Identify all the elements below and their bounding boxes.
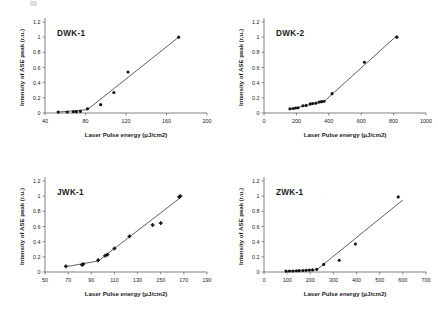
chart-panel-dwk-2: 00.20.40.60.811.202004006008001000DWK-2L… — [219, 0, 438, 159]
panel-title: DWK-2 — [276, 29, 304, 38]
chart-panel-zwk-1: 00.20.40.60.811.20100200300400500600700Z… — [219, 159, 438, 318]
data-point — [397, 195, 400, 198]
x-tick-label: 800 — [389, 118, 398, 124]
y-tick-label: 0 — [38, 269, 41, 275]
trend-line — [66, 198, 181, 267]
data-point — [308, 269, 311, 272]
panel-title: ZWK-1 — [276, 188, 304, 197]
data-point — [298, 269, 301, 272]
y-tick-label: 0.4 — [252, 80, 260, 86]
data-point — [301, 104, 304, 107]
chart-svg-dwk-1: 00.20.40.60.811.24080120160200DWK-1Laser… — [0, 0, 219, 159]
y-tick-label: 0.2 — [252, 254, 260, 260]
x-tick-label: 300 — [329, 277, 338, 283]
x-tick-label: 80 — [83, 118, 89, 124]
ase-threshold-figure: 00.20.40.60.811.24080120160200DWK-1Laser… — [0, 0, 438, 318]
data-point — [305, 269, 308, 272]
data-point — [315, 268, 318, 271]
data-point — [72, 110, 75, 113]
x-tick-label: 200 — [203, 118, 212, 124]
y-tick-label: 0.2 — [33, 95, 41, 101]
x-tick-label: 400 — [352, 277, 361, 283]
data-point — [79, 110, 82, 113]
data-point — [66, 110, 69, 113]
data-point — [159, 221, 163, 225]
x-axis-title: Laser Pulse energy (μJ/cm2) — [304, 131, 387, 138]
y-tick-label: 1.2 — [33, 178, 41, 184]
x-tick-label: 110 — [110, 277, 119, 283]
x-tick-label: 130 — [133, 277, 142, 283]
data-point — [354, 242, 357, 245]
chart-panel-jwk-1: 00.20.40.60.811.2507090110130150170190JW… — [0, 159, 219, 318]
y-axis-title: Intensity of ASE peak (r.u.) — [18, 188, 25, 265]
x-tick-label: 150 — [156, 277, 165, 283]
data-point — [75, 110, 78, 113]
chart-panel-dwk-1: 00.20.40.60.811.24080120160200DWK-1Laser… — [0, 0, 219, 159]
y-tick-label: 1.2 — [252, 178, 260, 184]
data-point — [295, 269, 298, 272]
data-point — [322, 263, 325, 266]
data-point — [288, 269, 291, 272]
x-tick-label: 160 — [162, 118, 171, 124]
data-point — [284, 270, 287, 273]
data-point — [305, 104, 308, 107]
y-tick-label: 0.4 — [252, 239, 260, 245]
y-axis-title: Intensity of ASE peak (r.u.) — [18, 29, 25, 106]
y-tick-label: 1.2 — [252, 19, 260, 25]
data-point — [86, 107, 89, 110]
x-tick-label: 0 — [263, 118, 266, 124]
panel-title: JWK-1 — [57, 188, 84, 197]
y-tick-label: 0.8 — [252, 208, 260, 214]
chart-svg-jwk-1: 00.20.40.60.811.2507090110130150170190JW… — [0, 159, 219, 318]
y-tick-label: 0.2 — [33, 254, 41, 260]
x-tick-label: 500 — [375, 277, 384, 283]
x-tick-label: 70 — [65, 277, 71, 283]
data-point — [363, 61, 366, 64]
data-point — [291, 269, 294, 272]
x-tick-label: 50 — [42, 277, 48, 283]
chart-svg-zwk-1: 00.20.40.60.811.20100200300400500600700Z… — [219, 159, 438, 318]
data-point — [99, 103, 102, 106]
y-tick-label: 0 — [257, 269, 260, 275]
data-point — [151, 223, 155, 227]
data-point — [177, 36, 180, 39]
y-tick-label: 1.2 — [33, 19, 41, 25]
y-tick-label: 0.2 — [252, 95, 260, 101]
y-tick-label: 1 — [257, 193, 260, 199]
y-axis-title: Intensity of ASE peak (r.u.) — [237, 188, 244, 265]
x-tick-label: 40 — [42, 118, 48, 124]
y-tick-label: 0.8 — [252, 49, 260, 55]
y-tick-label: 1 — [38, 193, 41, 199]
y-tick-label: 0 — [38, 110, 41, 116]
y-tick-label: 0.6 — [33, 65, 41, 71]
x-tick-label: 1000 — [420, 118, 432, 124]
data-point — [330, 92, 333, 95]
y-tick-label: 0.4 — [33, 239, 41, 245]
data-point — [311, 102, 314, 105]
x-tick-label: 400 — [324, 118, 333, 124]
y-tick-label: 0.8 — [33, 208, 41, 214]
data-point — [64, 264, 68, 268]
data-point — [338, 259, 341, 262]
x-tick-label: 190 — [203, 277, 212, 283]
y-tick-label: 1 — [38, 34, 41, 40]
data-point — [296, 106, 299, 109]
data-point — [112, 91, 115, 94]
x-axis-title: Laser Pulse energy (μJ/cm2) — [85, 131, 168, 138]
x-tick-label: 600 — [357, 118, 366, 124]
x-axis-title: Laser Pulse energy (μJ/cm2) — [85, 290, 168, 297]
y-axis-title: Intensity of ASE peak (r.u.) — [237, 29, 244, 106]
x-tick-label: 100 — [283, 277, 292, 283]
y-tick-label: 0 — [257, 110, 260, 116]
data-point — [126, 71, 129, 74]
x-tick-label: 90 — [88, 277, 94, 283]
y-tick-label: 1 — [257, 34, 260, 40]
chart-svg-dwk-2: 00.20.40.60.811.202004006008001000DWK-2L… — [219, 0, 438, 159]
data-point — [314, 102, 317, 105]
y-tick-label: 0.6 — [252, 65, 260, 71]
data-point — [301, 269, 304, 272]
y-tick-label: 0.4 — [33, 80, 41, 86]
y-tick-label: 0.6 — [33, 224, 41, 230]
x-tick-label: 120 — [122, 118, 131, 124]
x-axis-title: Laser Pulse energy (μJ/cm2) — [304, 290, 387, 297]
